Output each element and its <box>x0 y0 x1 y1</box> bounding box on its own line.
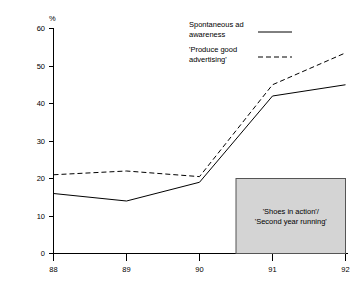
y-tick-label-30: 30 <box>37 137 45 146</box>
campaign-period-label-line2: 'Second year running' <box>255 217 328 226</box>
y-tick-label-60: 60 <box>37 24 45 33</box>
y-tick-label-20: 20 <box>37 174 45 183</box>
x-tick-label-92: 92 <box>341 265 349 274</box>
legend-entry-1-line2: advertising' <box>189 55 227 64</box>
y-tick-label-0: 0 <box>41 249 45 258</box>
x-tick-label-88: 88 <box>49 265 57 274</box>
chart-container: % 60 50 40 30 20 10 0 <box>0 0 361 290</box>
legend-entry-1-line1: 'Produce good <box>189 45 237 54</box>
line-chart: % 60 50 40 30 20 10 0 <box>0 0 361 290</box>
x-tick-label-91: 91 <box>268 265 276 274</box>
campaign-period-box <box>236 179 346 254</box>
x-tick-label-89: 89 <box>122 265 130 274</box>
campaign-period-label-line1: 'Shoes in action'/ <box>263 207 320 216</box>
legend-entry-0-line2: awareness <box>189 30 226 39</box>
x-tick-label-90: 90 <box>195 265 203 274</box>
y-tick-label-40: 40 <box>37 99 45 108</box>
legend-entry-0-line1: Spontaneous ad <box>189 20 244 29</box>
y-tick-label-10: 10 <box>37 212 45 221</box>
y-axis-unit-label: % <box>49 14 56 23</box>
y-tick-label-50: 50 <box>37 62 45 71</box>
